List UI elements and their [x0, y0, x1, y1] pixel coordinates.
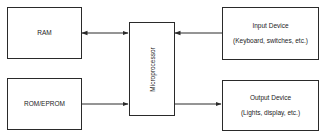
ram-block: RAM: [7, 7, 82, 59]
input-device-block: Input Device (Keyboard, switches, etc.): [222, 7, 319, 60]
microprocessor-block: Microprocessor: [129, 22, 175, 116]
rom-eprom-block: ROM/EPROM: [7, 78, 82, 130]
output-device-block: Output Device (Lights, display, etc.): [222, 80, 319, 131]
input-device-label: Input Device: [252, 23, 288, 30]
microprocessor-label: Microprocessor: [149, 47, 156, 91]
rom-eprom-label: ROM/EPROM: [24, 101, 65, 108]
output-device-label: Output Device: [250, 95, 291, 102]
output-device-sublabel: (Lights, display, etc.): [241, 110, 300, 117]
input-device-sublabel: (Keyboard, switches, etc.): [233, 38, 308, 45]
ram-label: RAM: [37, 30, 51, 37]
